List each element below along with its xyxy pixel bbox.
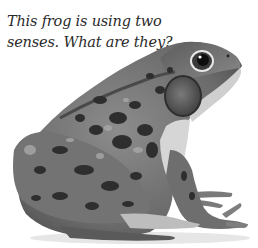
frog-front-leg: [166, 150, 246, 229]
frog-nostril: [227, 55, 230, 58]
frog-eye: [190, 50, 214, 72]
frog-photo: [0, 0, 258, 248]
frog-tympanum: [165, 76, 201, 116]
